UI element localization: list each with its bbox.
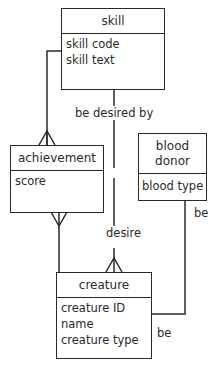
- attribute-blood-type: blood type: [142, 178, 206, 194]
- label-be-desired-by: be desired by: [75, 106, 153, 120]
- entity-skill-title: skill: [62, 9, 164, 34]
- entity-creature-title: creature: [57, 273, 151, 298]
- entity-blood-donor-title: blood donor: [139, 134, 206, 174]
- entity-achievement-title: achievement: [11, 146, 103, 171]
- attribute-skill-text: skill text: [66, 52, 164, 68]
- label-be-top: be: [194, 206, 208, 220]
- label-desire: desire: [106, 226, 141, 240]
- attribute-creature-id: creature ID: [61, 300, 151, 316]
- label-be-bottom: be: [157, 326, 171, 340]
- entity-achievement: achievement score: [10, 145, 104, 213]
- attribute-skill-code: skill code: [66, 36, 164, 52]
- attribute-name: name: [61, 316, 151, 332]
- entity-skill: skill skill code skill text: [61, 8, 165, 90]
- entity-blood-donor-name: blood donor: [145, 139, 200, 169]
- entity-blood-donor: blood donor blood type: [138, 133, 207, 201]
- attribute-score: score: [15, 173, 103, 189]
- entity-creature: creature creature ID name creature type: [56, 272, 152, 359]
- attribute-creature-type: creature type: [61, 332, 151, 348]
